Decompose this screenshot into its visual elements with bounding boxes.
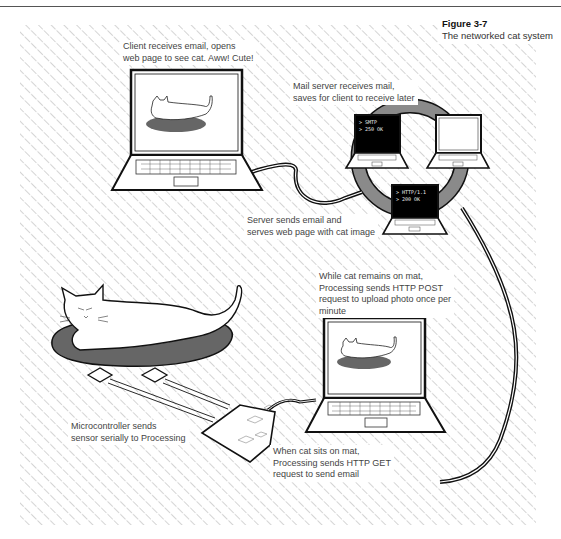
mail-screen-line-1: > SMTP xyxy=(359,119,377,125)
processing-laptop xyxy=(306,318,445,432)
figure-caption: Figure 3-7 The networked cat system xyxy=(438,18,557,44)
label-microcontroller: Microcontroller sends sensor serially to… xyxy=(68,420,189,445)
client-laptop xyxy=(112,70,262,190)
mail-server-laptop: > SMTP > 250 OK xyxy=(346,115,408,168)
label-http-post: While cat remains on mat, Processing sen… xyxy=(316,270,454,318)
web-screen-line-2: > 200 OK xyxy=(396,196,420,202)
figure-number: Figure 3-7 xyxy=(442,18,553,30)
web-server-laptop: > HTTP/1.1 > 200 OK xyxy=(383,185,447,234)
mail-screen-line-2: > 250 OK xyxy=(359,126,383,132)
web-screen-line-1: > HTTP/1.1 xyxy=(396,189,426,195)
label-http-get: When cat sits on mat, Processing sends H… xyxy=(270,445,394,482)
label-mail-server: Mail server receives mail, saves for cli… xyxy=(290,80,418,105)
figure-title: The networked cat system xyxy=(442,30,553,42)
label-client: Client receives email, opens web page to… xyxy=(120,40,256,65)
client-mail-laptop xyxy=(427,115,489,168)
label-server: Server sends email and serves web page w… xyxy=(244,214,378,239)
